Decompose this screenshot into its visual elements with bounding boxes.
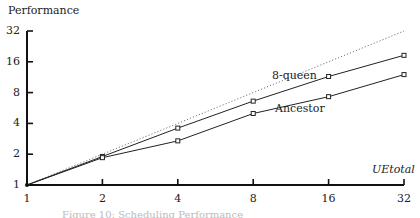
y-axis-label: Performance xyxy=(8,5,79,17)
series-line-ideal xyxy=(27,31,404,185)
data-point-marker xyxy=(176,139,180,143)
y-tick-label: 16 xyxy=(2,56,20,68)
x-tick-label: 8 xyxy=(243,193,263,205)
series-label-8-queen: 8-queen xyxy=(272,70,317,82)
caption-text: Figure 10: Scheduling Performance xyxy=(62,209,243,218)
series-line-ancestor xyxy=(27,75,404,185)
series-line-8-queen xyxy=(27,55,404,185)
x-tick-label: 1 xyxy=(17,193,37,205)
data-point-marker xyxy=(327,74,331,78)
data-point-marker xyxy=(100,156,104,160)
data-point-marker xyxy=(402,73,406,77)
y-tick-label: 2 xyxy=(2,148,20,160)
series-label-ancestor: Ancestor xyxy=(275,103,325,115)
y-tick-label: 32 xyxy=(2,25,20,37)
x-tick-label: 32 xyxy=(394,193,414,205)
data-point-marker xyxy=(327,95,331,99)
y-tick-label: 1 xyxy=(2,179,20,191)
data-point-marker xyxy=(176,126,180,130)
x-tick-label: 2 xyxy=(92,193,112,205)
data-point-marker xyxy=(251,99,255,103)
performance-chart xyxy=(0,0,420,218)
x-tick-label: 4 xyxy=(168,193,188,205)
x-axis-label: UEtotal xyxy=(372,164,415,176)
figure-caption: Figure 10: Scheduling Performance xyxy=(62,209,243,218)
data-point-marker xyxy=(402,53,406,57)
y-tick-label: 8 xyxy=(2,87,20,99)
y-tick-label: 4 xyxy=(2,117,20,129)
x-tick-label: 16 xyxy=(319,193,339,205)
data-point-marker xyxy=(251,111,255,115)
origin-dot xyxy=(25,183,29,187)
